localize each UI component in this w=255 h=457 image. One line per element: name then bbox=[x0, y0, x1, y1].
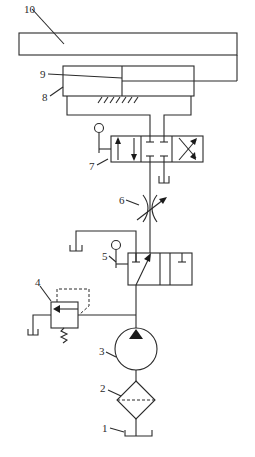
lever-knob-icon bbox=[95, 124, 104, 133]
lever-knob-icon bbox=[112, 241, 121, 250]
hydraulic-cylinder: 9 8 bbox=[40, 66, 237, 103]
throttle-valve: 6 bbox=[119, 194, 167, 222]
three-position-directional-valve: 7 bbox=[89, 124, 203, 173]
two-position-directional-valve: 5 bbox=[102, 241, 192, 286]
leader-line-2 bbox=[108, 390, 121, 396]
leader-line-10 bbox=[32, 9, 64, 44]
leader-line-8 bbox=[50, 87, 63, 96]
pump-direction-triangle-icon bbox=[129, 329, 143, 339]
hydraulic-pump: 3 bbox=[99, 328, 157, 370]
leader-line-7 bbox=[97, 159, 108, 165]
oil-tank: 1 bbox=[102, 419, 152, 436]
spring-icon bbox=[61, 328, 67, 343]
ground-hatch-icon bbox=[98, 97, 138, 103]
label-4: 4 bbox=[35, 276, 41, 288]
leader-line-9 bbox=[48, 74, 122, 78]
label-8: 8 bbox=[42, 91, 48, 103]
worktable: 10 bbox=[19, 3, 237, 81]
label-7: 7 bbox=[89, 160, 95, 172]
leader-line-4 bbox=[40, 286, 51, 301]
label-6: 6 bbox=[119, 194, 125, 206]
leader-line-5 bbox=[109, 256, 116, 262]
leader-line-3 bbox=[106, 352, 116, 357]
label-1: 1 bbox=[102, 422, 108, 434]
filter: 2 bbox=[100, 381, 155, 419]
tank-icon bbox=[159, 162, 169, 183]
label-5: 5 bbox=[102, 250, 108, 262]
leader-line-1 bbox=[110, 428, 124, 432]
relief-valve: 4 bbox=[28, 276, 89, 343]
label-3: 3 bbox=[99, 345, 105, 357]
label-2: 2 bbox=[100, 382, 106, 394]
label-9: 9 bbox=[40, 68, 46, 80]
leader-line-6 bbox=[126, 200, 139, 205]
hydraulic-circuit-diagram: 10 9 8 bbox=[0, 0, 255, 457]
label-10: 10 bbox=[24, 3, 36, 15]
